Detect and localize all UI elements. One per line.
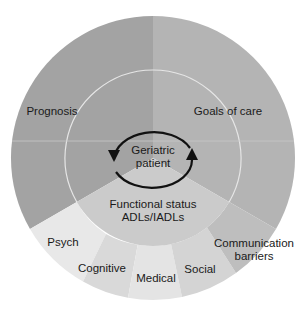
label-functional-status-line2: ADLs/IADLs [122, 211, 185, 223]
label-center-line1: Geriatric [131, 144, 175, 156]
label-cognitive: Cognitive [78, 262, 126, 274]
label-communication-line1: Communication [214, 237, 294, 249]
label-social: Social [184, 263, 215, 275]
label-functional-status-line1: Functional status [110, 198, 197, 210]
geriatric-assessment-diagram: Prognosis Goals of care Geriatric patien… [0, 0, 306, 313]
label-medical: Medical [136, 272, 176, 284]
label-psych: Psych [47, 236, 78, 248]
label-prognosis: Prognosis [26, 105, 77, 117]
label-communication-line2: barriers [235, 250, 274, 262]
label-goals-of-care: Goals of care [194, 105, 262, 117]
label-center-line2: patient [136, 157, 171, 169]
